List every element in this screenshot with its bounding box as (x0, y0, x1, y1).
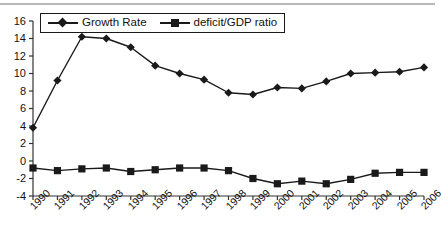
y-tick-label: 2 (0, 138, 26, 149)
y-tick-label: -2 (0, 173, 26, 184)
data-point-diamond (322, 77, 330, 85)
y-tick-label: 10 (0, 68, 26, 79)
y-tick-label: 0 (0, 156, 26, 167)
data-point-diamond (200, 76, 208, 84)
series-growth-rate (29, 33, 428, 132)
legend-entry-growth-rate: Growth Rate (48, 17, 147, 29)
data-point-diamond (298, 84, 306, 92)
y-tick-label: 6 (0, 103, 26, 114)
data-point-diamond (420, 63, 428, 71)
data-point-diamond (347, 69, 355, 77)
data-point-diamond (371, 69, 379, 77)
y-tick-label: 16 (0, 16, 26, 27)
data-point-diamond (29, 124, 37, 132)
data-point-diamond (224, 89, 232, 97)
data-point-square (127, 168, 134, 175)
data-point-square (396, 169, 403, 176)
data-point-diamond (273, 83, 281, 91)
series-deficit-gdp-ratio (29, 164, 427, 187)
data-point-square (200, 164, 207, 171)
data-point-square (249, 175, 256, 182)
diamond-marker-icon (48, 17, 78, 29)
y-tick-label: 4 (0, 121, 26, 132)
legend-entry-deficit-gdp-ratio: deficit/GDP ratio (160, 17, 278, 29)
data-point-diamond (395, 68, 403, 76)
legend-label-growth-rate: Growth Rate (82, 17, 147, 29)
data-point-diamond (78, 33, 86, 41)
data-point-diamond (249, 90, 257, 98)
data-point-square (103, 164, 110, 171)
y-tick-label: -4 (0, 191, 26, 202)
data-point-square (274, 180, 281, 187)
y-tick-label: 12 (0, 51, 26, 62)
data-point-square (372, 170, 379, 177)
legend-label-deficit-gdp-ratio: deficit/GDP ratio (194, 17, 278, 29)
data-point-square (78, 165, 85, 172)
data-point-square (29, 164, 36, 171)
data-point-square (152, 166, 159, 173)
data-point-square (54, 167, 61, 174)
data-point-diamond (102, 34, 110, 42)
data-point-square (176, 164, 183, 171)
chart-legend: Growth Rate deficit/GDP ratio (40, 13, 285, 33)
square-marker-icon (160, 17, 190, 29)
data-point-square (420, 169, 427, 176)
data-point-square (347, 176, 354, 183)
data-point-diamond (53, 76, 61, 84)
data-point-square (225, 167, 232, 174)
data-point-square (323, 180, 330, 187)
data-point-diamond (176, 69, 184, 77)
data-point-square (298, 178, 305, 185)
series-line (33, 37, 424, 128)
y-tick-label: 8 (0, 86, 26, 97)
y-tick-label: 14 (0, 33, 26, 44)
